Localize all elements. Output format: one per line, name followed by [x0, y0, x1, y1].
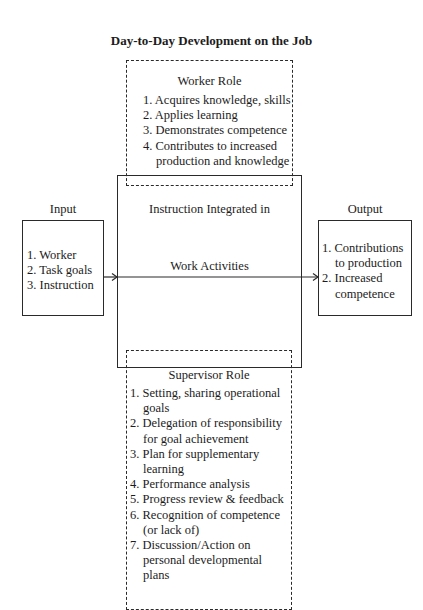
list-item: 6. Recognition of competence: [130, 508, 284, 523]
list-item-continuation: learning: [130, 462, 284, 477]
list-item-continuation: personal developmental: [130, 553, 284, 568]
list-item-continuation: (or lack of): [130, 523, 284, 538]
list-item: 4. Performance analysis: [130, 477, 284, 492]
list-item-continuation: goals: [130, 401, 284, 416]
supervisor-role-list: 1. Setting, sharing operational goals 2.…: [130, 386, 284, 584]
list-item: 7. Discussion/Action on: [130, 538, 284, 553]
list-item: 1. Setting, sharing operational: [130, 386, 284, 401]
supervisor-role-heading: Supervisor Role: [126, 368, 292, 383]
list-item: 3. Plan for supplementary: [130, 447, 284, 462]
list-item: 5. Progress review & feedback: [130, 492, 284, 507]
list-item-continuation: for goal achievement: [130, 432, 284, 447]
list-item: 2. Delegation of responsibility: [130, 416, 284, 431]
list-item-continuation: plans: [130, 568, 284, 583]
